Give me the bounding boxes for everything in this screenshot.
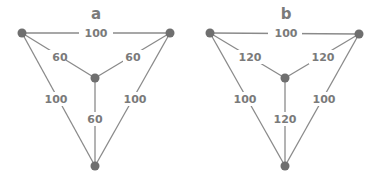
edge-label-a-top: 100: [85, 27, 108, 40]
node-a-top-right: [166, 29, 175, 38]
node-b-top-left: [206, 29, 215, 38]
node-b-center: [281, 74, 290, 83]
edge-label-b-center-bottom: 120: [274, 113, 297, 126]
edge-label-b-left: 100: [234, 93, 257, 106]
node-b-bottom: [281, 162, 290, 171]
edge-label-b-top: 100: [275, 27, 298, 40]
node-a-top-left: [18, 29, 27, 38]
node-b-top-right: [355, 30, 364, 39]
edge-label-a-center-bottom: 60: [87, 113, 103, 126]
graph-a: a 100 60 60 60 100 100: [18, 5, 175, 171]
edge-label-a-left: 100: [45, 93, 68, 106]
graph-b: b 100 120 120 120 100 100: [206, 5, 364, 171]
graph-b-title: b: [281, 5, 292, 23]
node-a-center: [91, 74, 100, 83]
edge-label-a-topright-center: 60: [125, 51, 141, 64]
diagram-canvas: a 100 60 60 60 100 100 b 100: [0, 0, 379, 185]
edge-label-b-topleft-center: 120: [239, 51, 262, 64]
edge-label-b-right: 100: [313, 93, 336, 106]
graph-a-title: a: [91, 5, 101, 23]
node-a-bottom: [91, 162, 100, 171]
edge-label-a-right: 100: [124, 93, 147, 106]
edge-label-a-topleft-center: 60: [52, 51, 68, 64]
edge-label-b-topright-center: 120: [312, 51, 335, 64]
